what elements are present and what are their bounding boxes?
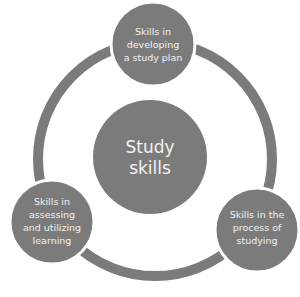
node-bottom-left-line-2: assessing [29,209,75,220]
node-bottom-left-line-4: learning [33,235,72,246]
center-label-line-1: Study [125,137,174,157]
node-bottom-left-line-3: and utilizing [23,222,81,233]
study-skills-cycle-diagram: Study skills Skills in developing a stud… [0,0,300,297]
node-top: Skills in developing a study plan [111,2,195,86]
center-circle [93,100,207,214]
node-top-line-3: a study plan [124,52,183,63]
center-node: Study skills [93,100,207,214]
node-bottom-left-line-1: Skills in [34,196,70,207]
node-top-line-2: developing [127,39,180,50]
node-bottom-right-line-2: process of [233,222,282,233]
node-top-line-1: Skills in [135,26,171,37]
node-bottom-right-line-3: studying [236,235,277,246]
center-label-line-2: skills [129,158,171,178]
node-bottom-right-line-1: Skills in the [230,209,285,220]
node-bottom-right: Skills in the process of studying [215,188,299,272]
node-bottom-left: Skills in assessing and utilizing learni… [10,180,94,264]
